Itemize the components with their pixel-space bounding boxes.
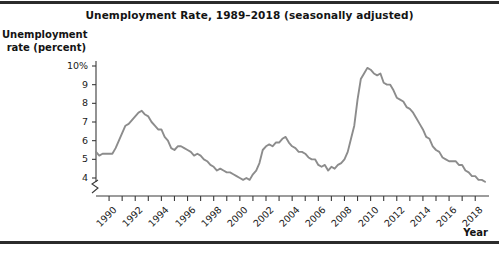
y-tick-label: 6 [48,136,88,146]
y-tick-label: 5 [48,154,88,164]
unemployment-rate-line [96,68,485,182]
chart-series-group [96,68,485,182]
y-tick-label: 8 [48,98,88,108]
chart-axes [92,61,489,201]
y-tick-label: 7 [48,117,88,127]
y-tick-label: 10% [48,61,88,71]
y-tick-label: 4 [48,173,88,183]
y-tick-label: 9 [48,80,88,90]
